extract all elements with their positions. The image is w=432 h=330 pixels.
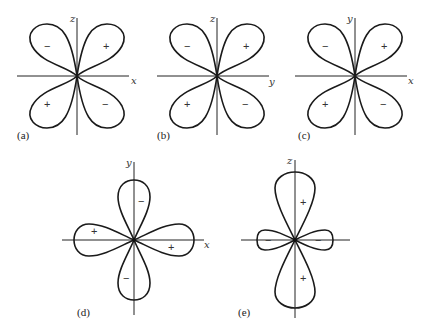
panel-d: − − + + y x (d) [62, 157, 210, 319]
sign-lower-right: − [380, 98, 386, 110]
sign-upper-right: + [381, 40, 387, 52]
vertical-axis-label: z [69, 13, 76, 24]
sign-upper-left: − [322, 40, 328, 52]
nucleus-dot [293, 238, 297, 242]
sign-lower-left: + [184, 98, 190, 110]
panel-b: − + + − z y (b) [157, 13, 275, 142]
panel-a: − + + − z x (a) [17, 13, 137, 142]
sign-lower-right: − [242, 98, 248, 110]
lobe-lower-right [355, 76, 402, 128]
sign-left: − [265, 234, 271, 246]
lobe-lower-right [77, 76, 124, 128]
panel-e: + + − − z (e) [238, 155, 350, 319]
lobe-upper-right [355, 24, 402, 76]
panel-caption: (b) [157, 129, 170, 142]
sign-bottom: + [300, 272, 306, 284]
lobe-lower-left [170, 76, 217, 128]
sign-upper-left: − [44, 40, 50, 52]
sign-right: − [315, 234, 321, 246]
sign-upper-right: + [103, 40, 109, 52]
sign-upper-left: − [184, 40, 190, 52]
sign-top: + [300, 196, 306, 208]
lobe-lower-left [30, 76, 77, 128]
vertical-axis-label: y [346, 13, 353, 24]
sign-upper-right: + [243, 40, 249, 52]
lobe-upper-left [308, 24, 355, 76]
orbital-figure: − + + − z x (a) − + + − z y (b) − + + − … [0, 0, 432, 330]
panel-c: − + + − y x (c) [295, 13, 414, 142]
lobe-upper-left [30, 24, 77, 76]
lobe-upper-left [170, 24, 217, 76]
sign-right: + [168, 241, 174, 253]
horizontal-axis-label: x [131, 75, 137, 86]
lobe-upper-right [217, 24, 264, 76]
sign-top: − [138, 195, 144, 207]
sign-lower-left: + [322, 98, 328, 110]
lobe-lower-left [308, 76, 355, 128]
horizontal-axis-label: x [204, 239, 210, 250]
panel-caption: (a) [17, 129, 30, 142]
panel-caption: (c) [298, 129, 311, 142]
vertical-axis-label: z [286, 155, 293, 166]
sign-bottom: − [123, 272, 129, 284]
sign-lower-left: + [44, 98, 50, 110]
lobe-lower-right [217, 76, 264, 128]
vertical-axis-label: z [209, 13, 216, 24]
horizontal-axis-label: x [408, 75, 414, 86]
sign-lower-right: − [102, 98, 108, 110]
nucleus-dot [132, 238, 136, 242]
sign-left: + [91, 225, 97, 237]
horizontal-axis-label: y [268, 76, 275, 87]
panel-caption: (d) [77, 306, 90, 319]
panel-caption: (e) [238, 306, 251, 319]
vertical-axis-label: y [125, 157, 132, 168]
lobe-upper-right [77, 24, 124, 76]
